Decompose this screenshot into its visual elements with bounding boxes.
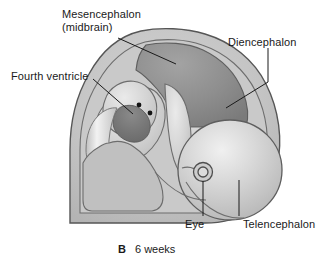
caption-panel-letter: B <box>118 243 126 255</box>
label-diencephalon: Diencephalon <box>228 36 296 49</box>
figure-caption: B6 weeks <box>118 243 175 255</box>
label-mesencephalon-line2: (midbrain) <box>62 21 113 33</box>
label-fourth-ventricle: Fourth ventricle <box>11 70 88 83</box>
embryo-brain-figure: Mesencephalon(midbrain) Fourth ventricle… <box>0 0 327 267</box>
eye-inner-circle <box>198 167 208 177</box>
label-telencephalon: Telencephalon <box>243 218 315 231</box>
label-eye: Eye <box>185 218 204 231</box>
ventricle-marker-dot-upper <box>137 103 142 108</box>
label-mesencephalon-line1: Mesencephalon <box>62 8 141 20</box>
caption-text: 6 weeks <box>135 243 175 255</box>
label-mesencephalon: Mesencephalon(midbrain) <box>62 8 141 33</box>
ventricle-marker-dot-lower <box>148 111 153 116</box>
